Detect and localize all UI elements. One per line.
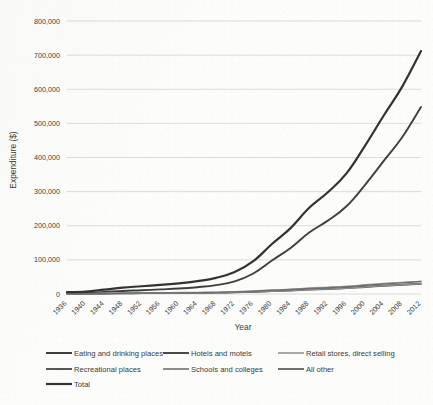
- x-axis-tick-labels: 1936194019441948195219561960196419681972…: [51, 299, 423, 317]
- y-tick-label: 700,000: [34, 51, 60, 60]
- y-tick-label: 0: [56, 290, 60, 299]
- x-tick-label: 1992: [312, 299, 330, 317]
- chart-canvas: 0100,000200,000300,000400,000500,000600,…: [0, 0, 433, 405]
- y-tick-label: 100,000: [34, 255, 60, 264]
- x-tick-label: 1972: [218, 299, 236, 317]
- x-tick-label: 1936: [51, 299, 69, 317]
- x-tick-label: 1980: [256, 299, 274, 317]
- legend-label: Schools and colleges: [191, 365, 263, 374]
- legend-label: Recreational places: [74, 365, 141, 374]
- x-tick-label: 1940: [69, 299, 87, 317]
- x-axis-title: Year: [235, 322, 252, 332]
- gridlines: [67, 21, 421, 294]
- x-tick-label: 1976: [237, 299, 255, 317]
- series-line: [67, 107, 421, 293]
- x-tick-label: 2000: [349, 299, 367, 317]
- x-tick-label: 1996: [330, 299, 348, 317]
- data-series-group: [67, 51, 421, 294]
- y-tick-label: 200,000: [34, 221, 60, 230]
- y-tick-label: 600,000: [34, 85, 60, 94]
- x-tick-label: 1988: [293, 299, 311, 317]
- legend-label: All other: [306, 365, 334, 374]
- expenditure-line-chart: 0100,000200,000300,000400,000500,000600,…: [0, 0, 433, 405]
- y-tick-label: 800,000: [34, 17, 60, 26]
- y-axis-tick-labels: 0100,000200,000300,000400,000500,000600,…: [34, 17, 60, 299]
- x-tick-label: 1968: [200, 299, 218, 317]
- y-tick-label: 500,000: [34, 119, 60, 128]
- y-tick-label: 400,000: [34, 153, 60, 162]
- legend-label: Hotels and motels: [191, 349, 252, 358]
- x-tick-label: 2008: [386, 299, 404, 317]
- x-tick-label: 1948: [107, 299, 125, 317]
- legend-label: Eating and drinking places: [74, 349, 163, 358]
- x-tick-label: 2004: [367, 299, 385, 317]
- x-tick-label: 1984: [274, 299, 292, 317]
- x-tick-label: 1960: [163, 299, 181, 317]
- x-tick-label: 2012: [405, 299, 423, 317]
- x-tick-label: 1964: [181, 299, 199, 317]
- series-line: [67, 51, 421, 292]
- x-tick-label: 1956: [144, 299, 162, 317]
- legend-label: Total: [74, 380, 90, 389]
- legend-label: Retail stores, direct selling: [306, 349, 395, 358]
- x-tick-label: 1944: [88, 299, 106, 317]
- chart-legend: Eating and drinking placesHotels and mot…: [46, 349, 395, 389]
- y-axis-title: Expenditure ($): [8, 131, 18, 188]
- y-tick-label: 300,000: [34, 187, 60, 196]
- x-tick-label: 1952: [125, 299, 143, 317]
